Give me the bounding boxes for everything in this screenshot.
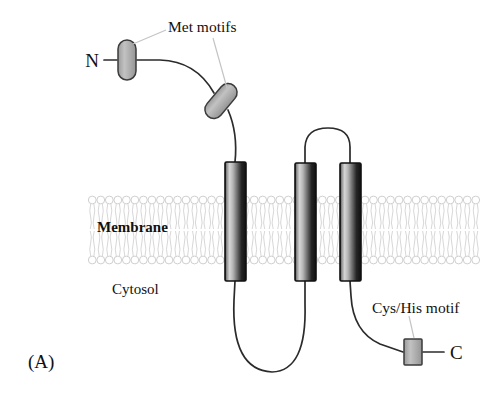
c-terminus-label: C	[450, 342, 463, 363]
transmembrane-helix-1	[225, 162, 246, 281]
cys-his-motif-block	[404, 339, 422, 365]
met-motif-1-capsule	[118, 40, 136, 80]
membrane-label: Membrane	[97, 219, 168, 235]
figure-root: Met motifs N Membrane Cytosol Cys/His mo…	[0, 0, 493, 403]
panel-label: (A)	[28, 351, 54, 373]
cytosol-label: Cytosol	[112, 281, 159, 297]
transmembrane-helix-2	[295, 163, 316, 281]
met-motifs-label: Met motifs	[168, 18, 236, 35]
cys-his-motif-label: Cys/His motif	[372, 299, 460, 316]
n-terminus-label: N	[85, 50, 99, 71]
membrane-protein-topology-diagram: Met motifs N Membrane Cytosol Cys/His mo…	[0, 0, 493, 403]
transmembrane-helix-3	[340, 163, 361, 281]
